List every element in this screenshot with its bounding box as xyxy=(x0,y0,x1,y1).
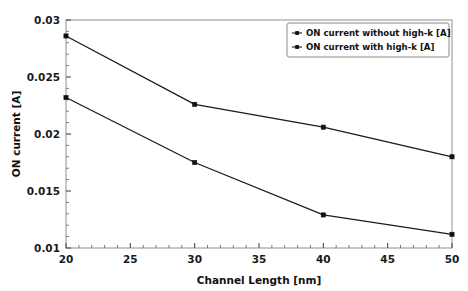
legend-entry[interactable]: ON current with high-k [A] xyxy=(292,42,435,52)
x-tick-label: 40 xyxy=(316,253,331,265)
x-tick-label: 45 xyxy=(380,253,395,265)
data-point-marker xyxy=(64,34,68,38)
legend-label: ON current without high-k [A] xyxy=(306,28,451,38)
y-tick-label: 0.025 xyxy=(27,71,60,83)
chart-figure: 0.010.0150.020.0250.03 20253035404550 Ch… xyxy=(0,0,468,291)
legend-label: ON current with high-k [A] xyxy=(306,42,435,52)
data-point-marker xyxy=(193,102,197,106)
data-point-marker xyxy=(450,155,454,159)
x-tick-label: 25 xyxy=(123,253,138,265)
y-tick-label: 0.01 xyxy=(34,242,60,254)
data-point-marker xyxy=(321,125,325,129)
data-point-marker xyxy=(64,95,68,99)
x-tick-label: 50 xyxy=(445,253,460,265)
y-tick-label: 0.03 xyxy=(34,14,60,26)
data-point-marker xyxy=(450,232,454,236)
legend-marker-dot xyxy=(295,45,299,49)
y-axis-tick-labels: 0.010.0150.020.0250.03 xyxy=(27,14,60,254)
data-point-marker xyxy=(321,213,325,217)
x-axis-tick-labels: 20253035404550 xyxy=(59,253,460,265)
y-axis-title: ON current [A] xyxy=(10,91,22,177)
x-tick-label: 30 xyxy=(187,253,202,265)
x-tick-label: 35 xyxy=(252,253,267,265)
line-chart: 0.010.0150.020.0250.03 20253035404550 Ch… xyxy=(0,0,468,291)
y-tick-label: 0.015 xyxy=(27,185,60,197)
x-axis-title: Channel Length [nm] xyxy=(197,274,322,286)
legend-marker-dot xyxy=(295,31,299,35)
y-tick-label: 0.02 xyxy=(34,128,60,140)
chart-legend[interactable]: ON current without high-k [A]ON current … xyxy=(287,23,451,57)
data-point-marker xyxy=(193,160,197,164)
legend-entry[interactable]: ON current without high-k [A] xyxy=(292,28,451,38)
x-tick-label: 20 xyxy=(59,253,74,265)
